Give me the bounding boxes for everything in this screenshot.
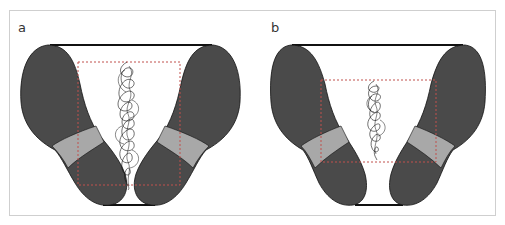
left-foot-b <box>271 45 367 205</box>
foot-diagrams <box>0 0 505 225</box>
panel-b-diagram <box>271 45 486 205</box>
panel-a-diagram <box>21 45 241 205</box>
right-foot-b <box>390 45 486 205</box>
left-foot-a <box>21 45 127 205</box>
right-foot-a <box>134 45 240 205</box>
cop-trace-b <box>368 81 381 160</box>
